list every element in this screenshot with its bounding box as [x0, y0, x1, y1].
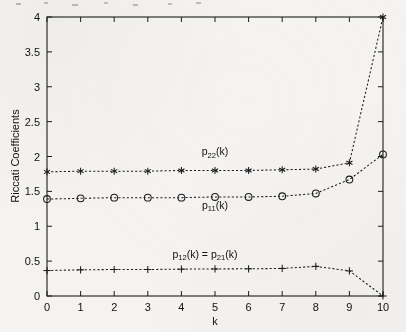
y-tick-label: 1.5 — [25, 185, 40, 197]
x-tick-label: 2 — [111, 301, 117, 313]
x-tick-label: 7 — [279, 301, 285, 313]
x-tick-label: 1 — [78, 301, 84, 313]
figure-background — [0, 0, 406, 332]
x-tick-label: 3 — [145, 301, 151, 313]
x-tick-label: 10 — [377, 301, 389, 313]
x-tick-label: 4 — [178, 301, 184, 313]
x-tick-label: 5 — [212, 301, 218, 313]
x-tick-label: 9 — [346, 301, 352, 313]
x-axis-title: k — [212, 315, 218, 327]
x-tick-label: 6 — [246, 301, 252, 313]
y-tick-label: 0.5 — [25, 255, 40, 267]
y-tick-label: 4 — [34, 11, 40, 23]
y-tick-label: 2.5 — [25, 116, 40, 128]
y-tick-label: 2 — [34, 151, 40, 163]
x-tick-label: 0 — [44, 301, 50, 313]
y-axis-title: Riccati Coefficients — [9, 109, 21, 203]
y-tick-label: 1 — [34, 220, 40, 232]
riccati-coefficients-figure: 00.511.522.533.54 012345678910 Riccati C… — [0, 0, 406, 332]
x-tick-label: 8 — [313, 301, 319, 313]
riccati-plot: 00.511.522.533.54 012345678910 Riccati C… — [0, 0, 406, 332]
y-tick-label: 0 — [34, 290, 40, 302]
y-tick-label: 3 — [34, 81, 40, 93]
y-tick-label: 3.5 — [25, 46, 40, 58]
